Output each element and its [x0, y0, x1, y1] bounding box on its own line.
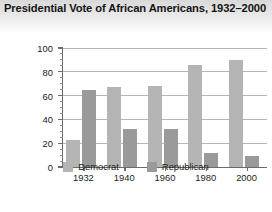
bar-democrat-2000: [229, 60, 243, 167]
legend-swatch-republican: [147, 162, 157, 172]
legend-item-democrat: Democrat: [63, 162, 119, 172]
plot-area: 02040608010019321940196019802000: [62, 48, 267, 168]
legend-label-republican: Republican: [162, 162, 209, 172]
chart-legend: Democrat Republican: [0, 158, 272, 176]
y-axis-tick-label: 100: [23, 43, 53, 54]
bar-group: [63, 48, 104, 167]
bar-group: [104, 48, 145, 167]
chart-title: Presidential Vote of African Americans, …: [4, 1, 268, 15]
legend-item-republican: Republican: [147, 162, 209, 172]
title-band: Presidential Vote of African Americans, …: [0, 0, 272, 33]
bar-democrat-1940: [107, 87, 121, 167]
bar-democrat-1980: [188, 65, 202, 167]
y-axis-tick-label: 80: [23, 66, 53, 77]
bar-group: [185, 48, 226, 167]
bar-republican-1932: [82, 90, 96, 167]
legend-label-democrat: Democrat: [78, 162, 119, 172]
y-axis-tick-label: 60: [23, 90, 53, 101]
plot-wrapper: Percentage of African Americans who vote…: [0, 33, 272, 212]
y-axis-tick-label: 40: [23, 114, 53, 125]
y-axis-tick-label: 20: [23, 138, 53, 149]
bar-group: [145, 48, 186, 167]
bar-democrat-1960: [148, 86, 162, 167]
bar-group: [226, 48, 267, 167]
legend-swatch-democrat: [63, 162, 73, 172]
chart-figure: Presidential Vote of African Americans, …: [0, 0, 272, 212]
